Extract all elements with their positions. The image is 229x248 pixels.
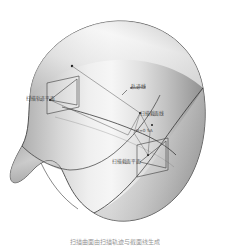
label-sweep-section-plane: 扫描截面平面 [112,158,141,164]
label-dimension-note: H=0 SA [136,128,153,134]
swept-surface-solid [10,21,205,221]
figure-caption: 扫描曲面由扫描轨迹与截面线生成 [0,238,229,246]
label-section-line: 扫描截面线 [140,110,164,116]
cad-drawing-canvas [0,0,229,248]
label-trajectory-line: 轨迹线 [131,83,145,89]
sweep-section-plane [137,138,168,177]
dimension-anchor-point [151,124,153,126]
cad-figure: 扫描轨迹平面 轨迹线 扫描截面线 H=0 SA 扫描截面平面 扫描曲面由扫描轨迹… [0,0,229,248]
label-sweep-trajectory-plane: 扫描轨迹平面 [26,95,55,101]
right-plane-quad [137,138,168,177]
